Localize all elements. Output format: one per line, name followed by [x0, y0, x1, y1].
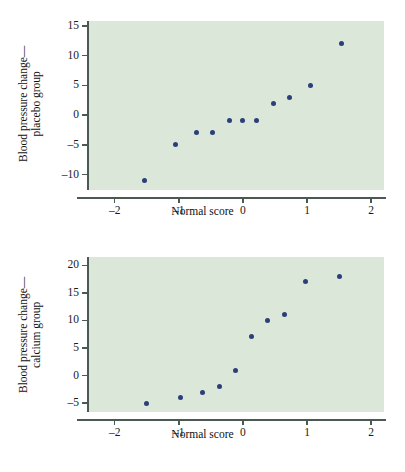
- data-point: [254, 118, 259, 123]
- data-point: [308, 83, 313, 88]
- y-axis-tick: [82, 114, 87, 116]
- y-axis-title-line1: Blood pressure change—: [17, 277, 29, 393]
- x-axis-title-calcium: Normal score: [0, 428, 405, 441]
- data-point: [233, 368, 238, 373]
- chart-panel-calcium: Blood pressure change— calcium group 201…: [0, 236, 405, 472]
- y-axis-tick: [82, 375, 87, 377]
- y-axis-tick: [82, 144, 87, 146]
- y-axis-tick-label: 15: [68, 20, 80, 32]
- y-axis-tick-label: 20: [68, 259, 80, 271]
- y-axis-title-line2: calcium group: [30, 302, 42, 368]
- data-point: [142, 178, 147, 183]
- y-axis-tick-label: 15: [68, 287, 80, 299]
- data-points-calcium: [89, 257, 384, 412]
- y-axis-title-placebo: Blood pressure change— placebo group: [17, 29, 43, 179]
- chart-panel-placebo: Blood pressure change— placebo group 151…: [0, 0, 405, 236]
- x-axis-tick: [242, 198, 244, 203]
- x-axis-tick: [370, 198, 372, 203]
- data-point: [303, 279, 308, 284]
- y-axis-title-line2: placebo group: [30, 71, 42, 136]
- x-axis-tick: [242, 420, 244, 425]
- data-point: [265, 318, 270, 323]
- y-axis-tick-label: 5: [73, 79, 79, 91]
- data-point: [217, 384, 222, 389]
- y-axis-tick-label: 5: [73, 342, 79, 354]
- data-point: [282, 312, 287, 317]
- data-point: [287, 95, 292, 100]
- plot-area-calcium: [89, 257, 384, 412]
- plot-area-placebo: [89, 21, 384, 190]
- y-axis-line: [87, 257, 89, 412]
- figure-normal-quantile-plots: Blood pressure change— placebo group 151…: [0, 0, 405, 472]
- y-axis-tick: [82, 347, 87, 349]
- x-axis-tick: [114, 420, 116, 425]
- x-axis-tick: [114, 198, 116, 203]
- x-axis-tick: [178, 198, 180, 203]
- data-point: [249, 334, 254, 339]
- data-point: [240, 118, 245, 123]
- data-point: [271, 101, 276, 106]
- data-point: [194, 130, 199, 135]
- data-point: [339, 41, 344, 46]
- y-axis-tick: [82, 25, 87, 27]
- y-axis-tick-label: –5: [68, 139, 80, 151]
- x-axis-line: [77, 419, 386, 421]
- x-axis-tick: [306, 198, 308, 203]
- data-point: [200, 390, 205, 395]
- data-points-placebo: [89, 21, 384, 190]
- x-axis-title-placebo: Normal score: [0, 205, 405, 218]
- y-axis-tick: [82, 174, 87, 176]
- y-axis-tick: [82, 402, 87, 404]
- y-axis-line: [87, 21, 89, 190]
- y-axis-title-line1: Blood pressure change—: [17, 46, 29, 162]
- y-axis-tick-label: 10: [68, 314, 80, 326]
- y-axis-tick-label: –10: [62, 169, 79, 181]
- y-axis-tick-label: 10: [68, 50, 80, 62]
- x-axis-line: [77, 197, 386, 199]
- data-point: [227, 118, 232, 123]
- y-axis-tick: [82, 320, 87, 322]
- data-point: [144, 401, 149, 406]
- y-axis-tick-label: 0: [73, 370, 79, 382]
- data-point: [173, 142, 178, 147]
- y-axis-title-calcium: Blood pressure change— calcium group: [17, 260, 43, 410]
- x-axis-tick: [306, 420, 308, 425]
- data-point: [210, 130, 215, 135]
- y-axis-tick: [82, 55, 87, 57]
- y-axis-tick: [82, 85, 87, 87]
- x-axis-tick: [178, 420, 180, 425]
- y-axis-tick: [82, 265, 87, 267]
- data-point: [178, 395, 183, 400]
- y-axis-tick: [82, 292, 87, 294]
- data-point: [337, 274, 342, 279]
- x-axis-tick: [370, 420, 372, 425]
- y-axis-tick-label: 0: [73, 109, 79, 121]
- y-axis-tick-label: –5: [68, 397, 80, 409]
